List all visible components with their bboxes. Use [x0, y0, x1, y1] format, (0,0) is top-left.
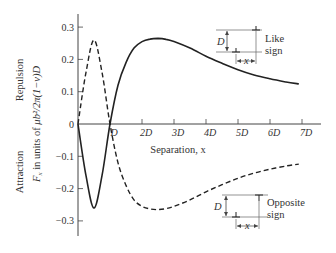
y-tick-label: 0.3: [62, 22, 75, 33]
x-tick-label: 7D: [300, 127, 313, 138]
chart: 0.30.20.10−0.1−0.2−0.3 D2D3D4D5D6D7D Rep…: [0, 0, 336, 253]
like-sign-inset: D x Like sign: [216, 26, 285, 66]
x-axis: D2D3D4D5D6D7D: [78, 119, 321, 138]
x-tick-label: 5D: [236, 127, 249, 138]
x-tick-label: 4D: [204, 127, 217, 138]
opp-inset-D: D: [213, 201, 222, 212]
opp-inset-x: x: [244, 220, 250, 231]
opposite-sign-curve: [78, 40, 299, 210]
opp-sign-label-2: sign: [267, 209, 285, 220]
like-inset-x: x: [243, 55, 249, 66]
like-sign-curve: [78, 38, 299, 208]
opposite-sign-inset: D x Opposite sign: [213, 195, 305, 231]
ylabel-attraction: Attraction: [14, 150, 25, 193]
x-tick-label: 3D: [171, 127, 185, 138]
like-inset-D: D: [216, 36, 225, 47]
like-sign-label-2: sign: [265, 45, 283, 56]
ylabel-units: Fx in units of μb²/2π(1−ν)D: [31, 66, 44, 183]
opp-sign-label-1: Opposite: [267, 197, 305, 208]
xlabel: Separation, x: [150, 144, 206, 155]
y-tick-label: 0.1: [62, 86, 75, 97]
y-tick-label: 0: [69, 119, 74, 130]
y-tick-label: 0.2: [62, 54, 75, 65]
like-sign-label-1: Like: [265, 33, 285, 44]
x-tick-label: 6D: [268, 127, 281, 138]
ylabel-repulsion: Repulsion: [14, 58, 25, 101]
y-tick-label: −0.1: [56, 151, 74, 162]
y-tick-label: −0.2: [56, 183, 74, 194]
y-tick-label: −0.3: [56, 215, 74, 226]
x-tick-label: 2D: [140, 127, 153, 138]
